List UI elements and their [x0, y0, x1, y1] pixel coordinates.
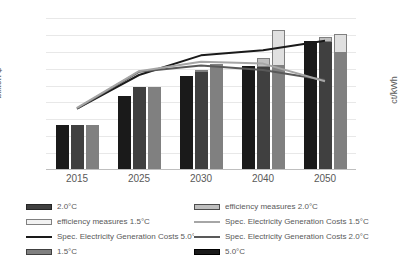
- legend-item[interactable]: Spec. Electricity Generation Costs 1.5°C: [194, 217, 386, 226]
- bar-group: [46, 18, 108, 170]
- bar-segment-base[interactable]: [86, 125, 99, 170]
- legend-line-swatch: [194, 221, 220, 223]
- y-axis-right-title: ct/kWh: [389, 76, 399, 104]
- bar-series-layer: [46, 18, 356, 170]
- bar-segment-base[interactable]: [71, 125, 84, 170]
- bar[interactable]: [272, 30, 285, 170]
- legend-item[interactable]: efficiency measures 1.5°C: [26, 217, 194, 226]
- bar[interactable]: [71, 125, 84, 170]
- bar[interactable]: [319, 37, 332, 170]
- bar-segment-base[interactable]: [118, 96, 131, 170]
- legend-item[interactable]: efficiency measures 2.0°C: [194, 202, 386, 211]
- bar-segment-base[interactable]: [242, 66, 255, 170]
- legend-label: efficiency measures 1.5°C: [57, 217, 150, 226]
- x-axis-tick-label: 2025: [108, 172, 170, 188]
- chart-legend: 2.0°Cefficiency measures 2.0°Cefficiency…: [26, 199, 386, 259]
- legend-line-swatch: [194, 236, 220, 238]
- bar[interactable]: [118, 96, 131, 170]
- bar-group: [170, 18, 232, 170]
- legend-box-swatch: [26, 219, 52, 225]
- bar-segment-efficiency[interactable]: [272, 30, 285, 66]
- bar-segment-base[interactable]: [319, 42, 332, 170]
- bar-segment-efficiency[interactable]: [334, 34, 347, 53]
- y-axis-left-title: billion $: [0, 68, 3, 99]
- bar-segment-base[interactable]: [180, 76, 193, 170]
- plot-area: [46, 18, 356, 170]
- legend-item[interactable]: 1.5°C: [26, 247, 194, 256]
- bar-segment-base[interactable]: [133, 87, 146, 170]
- bar-segment-base[interactable]: [334, 53, 347, 170]
- legend-label: Spec. Electricity Generation Costs 5.0°C: [57, 232, 194, 241]
- legend-label: 2.0°C: [57, 202, 77, 211]
- bar[interactable]: [148, 87, 161, 170]
- bar-group: [232, 18, 294, 170]
- legend-box-swatch: [26, 204, 52, 210]
- bar[interactable]: [86, 125, 99, 170]
- legend-label: efficiency measures 2.0°C: [225, 202, 318, 211]
- legend-label: Spec. Electricity Generation Costs 1.5°C: [225, 217, 369, 226]
- x-axis-tick-label: 2030: [170, 172, 232, 188]
- bar-segment-base[interactable]: [195, 72, 208, 170]
- legend-item[interactable]: 5.0°C: [194, 247, 386, 256]
- legend-label: 5.0°C: [225, 247, 245, 256]
- bar-segment-base[interactable]: [56, 125, 69, 170]
- bar-group: [108, 18, 170, 170]
- bar[interactable]: [210, 64, 223, 170]
- chart-root: billion $ ct/kWh 90080070060050040030020…: [0, 0, 406, 280]
- bar[interactable]: [56, 125, 69, 170]
- bar-segment-base[interactable]: [210, 66, 223, 170]
- bar-segment-base[interactable]: [148, 89, 161, 170]
- bar-segment-base[interactable]: [304, 41, 317, 170]
- bar-segment-base[interactable]: [257, 67, 270, 170]
- x-axis-tick-label: 2040: [232, 172, 294, 188]
- bar[interactable]: [195, 70, 208, 170]
- legend-label: 1.5°C: [57, 247, 77, 256]
- bar-segment-base[interactable]: [272, 66, 285, 170]
- legend-box-swatch: [194, 249, 220, 255]
- bar-group: [294, 18, 356, 170]
- bar[interactable]: [133, 87, 146, 170]
- bar[interactable]: [180, 76, 193, 170]
- legend-box-swatch: [26, 249, 52, 255]
- legend-item[interactable]: Spec. Electricity Generation Costs 5.0°C: [26, 232, 194, 241]
- x-axis-tick-label: 2050: [294, 172, 356, 188]
- bar[interactable]: [304, 41, 317, 170]
- bar-segment-efficiency[interactable]: [257, 58, 270, 66]
- x-axis-tick-label: 2015: [46, 172, 108, 188]
- legend-label: Spec. Electricity Generation Costs 2.0°C: [225, 232, 369, 241]
- legend-line-swatch: [26, 236, 52, 238]
- bar[interactable]: [257, 58, 270, 170]
- legend-item[interactable]: 2.0°C: [26, 202, 194, 211]
- legend-item[interactable]: Spec. Electricity Generation Costs 2.0°C: [194, 232, 386, 241]
- x-axis-line: [46, 169, 356, 170]
- bar[interactable]: [334, 34, 347, 170]
- bar[interactable]: [242, 66, 255, 170]
- x-axis-ticks: 20152025203020402050: [46, 172, 356, 188]
- legend-box-swatch: [194, 204, 220, 210]
